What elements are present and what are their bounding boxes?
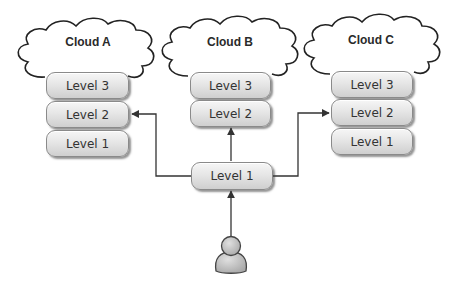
cloud-c-level-2[interactable]: Level 2 bbox=[331, 99, 413, 126]
cloud-c-label: Cloud C bbox=[331, 33, 411, 47]
person-icon bbox=[216, 237, 247, 274]
cloud-a-level-1[interactable]: Level 1 bbox=[46, 130, 129, 157]
cloud-c-level-1[interactable]: Level 1 bbox=[331, 128, 413, 155]
cloud-c-level-3[interactable]: Level 3 bbox=[331, 71, 413, 98]
cloud-a-level-3[interactable]: Level 3 bbox=[46, 72, 129, 99]
cloud-a-label: Cloud A bbox=[48, 35, 128, 49]
diagram-canvas: Cloud A Cloud B Cloud C Level 3 Level 2 … bbox=[0, 0, 459, 293]
cloud-b-level-3[interactable]: Level 3 bbox=[190, 72, 271, 99]
entry-level-1[interactable]: Level 1 bbox=[191, 162, 273, 190]
arrow-to-cloud-a bbox=[132, 114, 191, 176]
cloud-b-level-2[interactable]: Level 2 bbox=[190, 100, 271, 127]
cloud-b-label: Cloud B bbox=[190, 35, 270, 49]
arrow-to-cloud-c bbox=[273, 113, 329, 176]
cloud-a-level-2[interactable]: Level 2 bbox=[46, 101, 129, 128]
